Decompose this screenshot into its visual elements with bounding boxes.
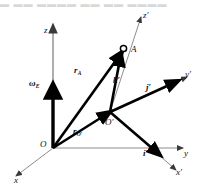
axis-label-z-prime: z′ [143,11,148,20]
vector-label-k-prime: k′ [113,76,120,85]
axis-x-line [16,148,53,176]
axis-label-x: x [14,176,18,185]
point-label-O: O [40,140,47,149]
vector-j-prime-line [110,81,178,112]
vector-label-rA: rA [74,66,81,75]
point-label-O-prime: O′ [105,118,113,127]
rA-subscript: A [78,70,82,76]
vector-diagram-figure: ▬ ▬▬ ▬▬▬▬ ▬▬ ▬▬ ▬▬▬▬ [0,0,203,190]
axis-label-y: y [184,149,188,158]
axis-z-prime-line [110,17,141,112]
vector-label-omega-E: ωE [29,79,39,88]
axis-label-z: z [44,26,48,35]
omega-glyph: ω [29,78,36,88]
point-label-A: A [131,45,137,54]
rOp-glyph: r [73,126,77,136]
axis-label-x-prime: x′ [176,168,182,177]
rOp-subscript: O′ [77,131,83,137]
vector-label-i-prime: i′ [143,149,148,158]
vector-label-rOprime: rO′ [73,127,82,136]
axis-label-y-prime: y′ [185,70,191,79]
rA-glyph: r [74,65,78,75]
point-A-marker [120,45,126,51]
vector-i-prime-line [110,112,160,155]
omega-subscript: E [36,83,40,89]
vector-label-j-prime: j′ [146,83,151,92]
diagram-canvas [0,0,203,190]
